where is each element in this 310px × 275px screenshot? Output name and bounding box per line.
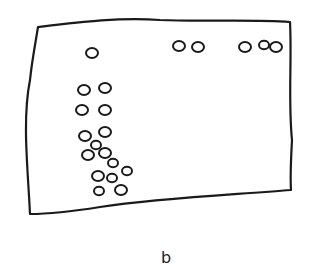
figure-label: b — [161, 248, 171, 267]
frame-outline — [26, 19, 292, 214]
circle-mark — [173, 41, 185, 51]
circle-mark — [115, 185, 127, 195]
circle-group — [76, 41, 282, 196]
circle-mark — [192, 42, 204, 52]
circle-mark — [239, 42, 251, 52]
circle-mark — [82, 150, 94, 160]
circle-mark — [76, 105, 88, 115]
circle-mark — [99, 83, 111, 93]
circle-mark — [86, 48, 98, 58]
circle-mark — [122, 167, 132, 176]
circle-mark — [107, 174, 117, 183]
circle-mark — [108, 159, 118, 168]
circle-mark — [92, 171, 104, 181]
circle-mark — [78, 85, 90, 95]
circle-mark — [79, 131, 91, 141]
diagram-canvas — [0, 0, 310, 275]
circle-mark — [270, 42, 282, 52]
circle-mark — [99, 127, 111, 137]
circle-mark — [94, 187, 104, 196]
circle-mark — [259, 41, 269, 50]
circle-mark — [99, 148, 111, 158]
circle-mark — [91, 141, 101, 150]
circle-mark — [99, 105, 111, 115]
